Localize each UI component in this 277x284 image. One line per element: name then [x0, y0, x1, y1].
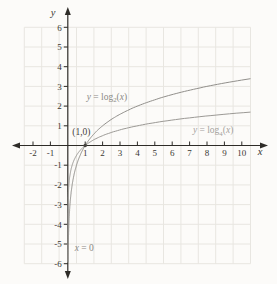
y-tick-label: -5: [54, 239, 62, 249]
x-tick-label: -2: [29, 148, 37, 158]
curve-label-log4: y = log4(x): [192, 125, 233, 137]
point-label: (1,0): [72, 127, 90, 138]
curve-label-log2: y = log2(x): [86, 92, 127, 104]
y-tick-label: 4: [57, 62, 62, 72]
y-axis-arrow-bottom: [65, 271, 71, 279]
x-tick-label: 2: [100, 148, 105, 158]
y-tick-label: -1: [54, 160, 62, 170]
y-tick-label: 5: [57, 42, 62, 52]
point-1-0: [83, 144, 87, 148]
x-tick-label: 3: [118, 148, 123, 158]
y-axis-label: y: [50, 7, 56, 18]
x-tick-label: 10: [237, 148, 247, 158]
x-tick-label: -1: [47, 148, 55, 158]
y-tick-label: 6: [57, 23, 62, 33]
y-tick-label: 1: [57, 121, 62, 131]
y-tick-label: -2: [54, 180, 62, 190]
log-functions-chart: -2-112345678910-6-5-4-3-2-1123456xyy = l…: [0, 0, 277, 284]
y-tick-label: 2: [57, 101, 62, 111]
x-tick-label: 6: [170, 148, 175, 158]
x-tick-label: 4: [135, 148, 140, 158]
x-tick-label: 5: [153, 148, 158, 158]
y-tick-label: -6: [54, 259, 62, 269]
x-axis-arrow-left: [12, 143, 20, 149]
x-axis-label: x: [257, 146, 263, 157]
asymptote-label: x = 0: [74, 243, 94, 253]
y-tick-label: -3: [54, 200, 62, 210]
x-tick-label: 8: [205, 148, 210, 158]
x-tick-label: 7: [187, 148, 192, 158]
chart-canvas: -2-112345678910-6-5-4-3-2-1123456xyy = l…: [0, 0, 277, 284]
y-tick-label: 3: [57, 82, 62, 92]
y-tick-label: -4: [54, 220, 62, 230]
y-axis-arrow-top: [65, 7, 71, 15]
x-tick-label: 9: [222, 148, 227, 158]
